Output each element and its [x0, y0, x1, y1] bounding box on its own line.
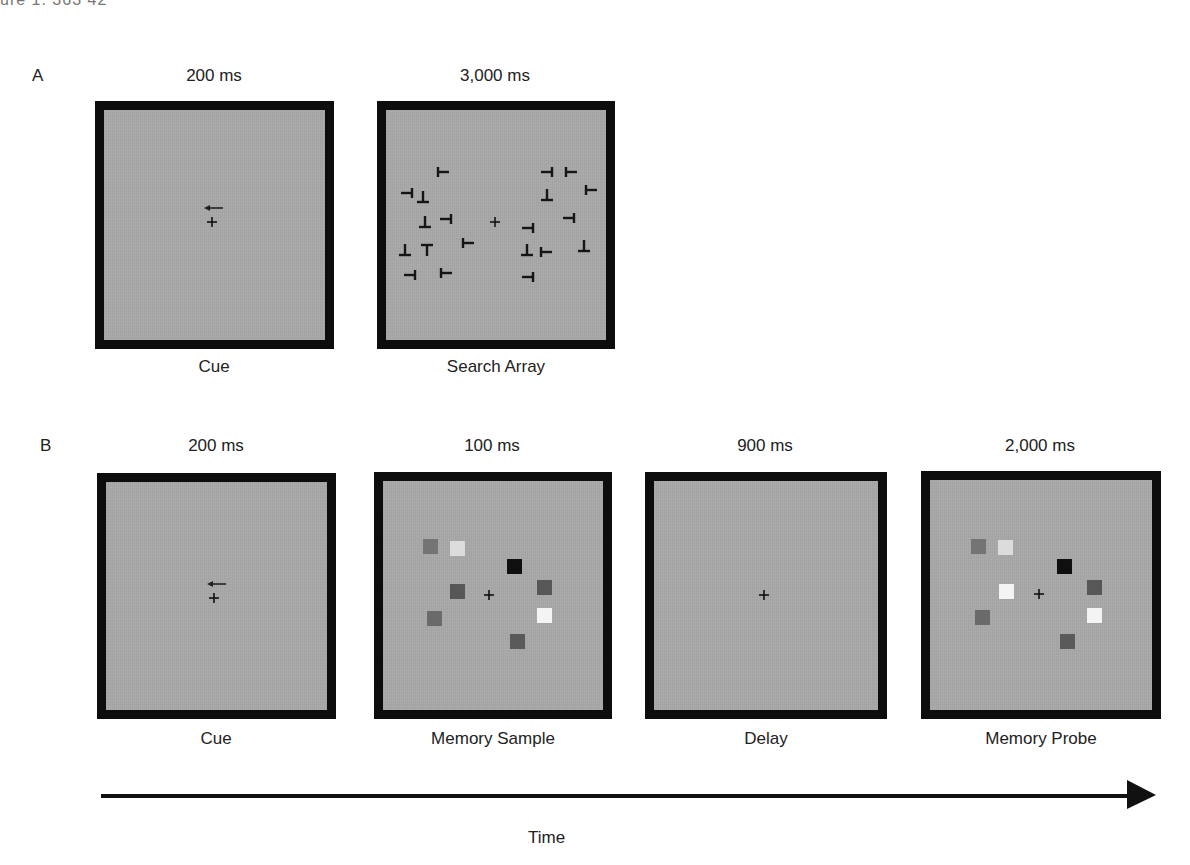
panel-a-search-array	[377, 101, 615, 349]
section-label-b: B	[40, 436, 51, 456]
caption-b-delay: Delay	[646, 729, 886, 749]
panel-b-memory-probe	[921, 471, 1161, 719]
duration-b-delay: 900 ms	[645, 436, 885, 456]
clipped-figure-header: ure 1. 363 42	[0, 0, 107, 9]
cue-arrow-icon	[97, 473, 336, 719]
duration-b-cue: 200 ms	[96, 436, 336, 456]
fixation-cross-icon	[645, 472, 887, 719]
caption-a-search: Search Array	[376, 357, 616, 377]
panel-b-delay	[645, 472, 887, 719]
duration-a-cue: 200 ms	[94, 66, 334, 86]
memory-squares-icon	[921, 471, 1161, 719]
memory-squares-icon	[374, 472, 612, 719]
caption-b-sample: Memory Sample	[373, 729, 613, 749]
panel-a-cue	[95, 101, 334, 349]
section-label-a: A	[32, 66, 43, 86]
time-axis-label: Time	[528, 828, 565, 848]
panel-b-cue	[97, 473, 336, 719]
caption-b-probe: Memory Probe	[921, 729, 1161, 749]
duration-a-search: 3,000 ms	[375, 66, 615, 86]
panel-b-memory-sample	[374, 472, 612, 719]
caption-b-cue: Cue	[96, 729, 336, 749]
caption-a-cue: Cue	[94, 357, 334, 377]
duration-b-probe: 2,000 ms	[920, 436, 1160, 456]
cue-arrow-icon	[95, 101, 334, 349]
duration-b-sample: 100 ms	[372, 436, 612, 456]
search-letters-icon	[377, 101, 615, 349]
